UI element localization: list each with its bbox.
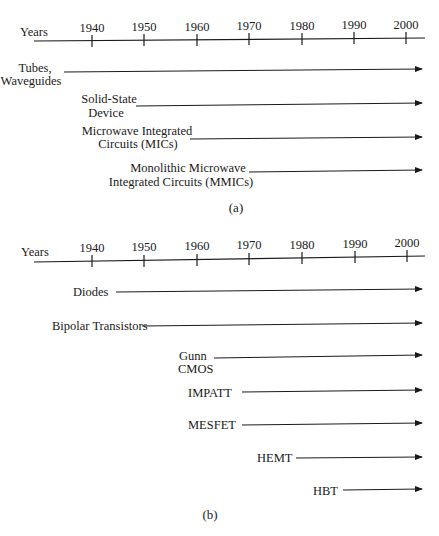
- year-axis: [34, 256, 425, 262]
- arrow: [214, 355, 422, 358]
- item-label: Solid-State: [81, 92, 137, 106]
- arrow: [116, 289, 422, 292]
- arrow: [190, 137, 422, 139]
- tick-label-1990: 1990: [342, 18, 367, 32]
- tick-label-1970: 1970: [237, 238, 262, 252]
- item-hbt: HBT: [313, 484, 422, 498]
- item-label: HBT: [313, 484, 338, 498]
- technology-timeline-diagram: Years 1940 1950 1960 1970 1980 1990 2000…: [0, 0, 439, 536]
- item-label: Tubes,: [18, 61, 51, 75]
- tick-label-1940: 1940: [80, 21, 105, 35]
- tick-label-1960: 1960: [185, 20, 210, 34]
- item-gunn-cmos: Gunn CMOS: [178, 349, 422, 376]
- arrow: [343, 489, 422, 490]
- item-label: Monolithic Microwave: [130, 161, 246, 175]
- item-label: HEMT: [257, 451, 293, 465]
- panel-caption: (a): [229, 200, 243, 215]
- panel-caption: (b): [202, 507, 217, 522]
- arrow: [64, 69, 422, 72]
- tick-label-2000: 2000: [394, 18, 419, 32]
- item-label: Diodes: [73, 285, 109, 299]
- item-label: Microwave Integrated: [82, 124, 193, 138]
- tick-label-1940: 1940: [80, 241, 105, 255]
- tick-label-2000: 2000: [395, 236, 420, 250]
- tick-label-1950: 1950: [132, 20, 157, 34]
- item-label: Bipolar Transistors: [52, 319, 148, 333]
- item-mesfet: MESFET: [188, 418, 422, 432]
- tick-label-1990: 1990: [343, 237, 368, 251]
- arrow: [249, 170, 422, 172]
- item-label: Circuits (MICs): [98, 137, 178, 151]
- panel-b: Years 1940 1950 1960 1970 1980 1990 2000…: [21, 236, 425, 522]
- item-impatt: IMPATT: [188, 386, 422, 400]
- axis-ticks: [92, 32, 406, 47]
- arrow: [242, 390, 422, 392]
- tick-label-1950: 1950: [132, 240, 157, 254]
- item-label: Gunn: [179, 349, 208, 363]
- item-mmics: Monolithic Microwave Integrated Circuits…: [109, 161, 422, 189]
- item-diodes: Diodes: [73, 285, 422, 299]
- arrow: [296, 457, 422, 458]
- item-label: Waveguides: [1, 74, 62, 88]
- item-hemt: HEMT: [257, 451, 422, 465]
- panel-a: Years 1940 1950 1960 1970 1980 1990 2000…: [1, 18, 425, 215]
- item-solid-state-device: Solid-State Device: [81, 92, 422, 120]
- arrow: [142, 323, 422, 326]
- arrow: [242, 423, 422, 425]
- year-axis: [34, 38, 425, 41]
- axis-label: Years: [21, 245, 49, 259]
- tick-label-1970: 1970: [237, 19, 262, 33]
- axis-label: Years: [20, 25, 48, 39]
- item-bipolar-transistors: Bipolar Transistors: [52, 319, 422, 333]
- tick-label-1980: 1980: [290, 19, 315, 33]
- item-label: MESFET: [188, 418, 236, 432]
- arrow: [136, 103, 422, 106]
- tick-label-1980: 1980: [290, 238, 315, 252]
- item-tubes-waveguides: Tubes, Waveguides: [1, 61, 422, 88]
- item-label: Integrated Circuits (MMICs): [109, 175, 253, 189]
- item-label: Device: [88, 106, 124, 120]
- item-mics: Microwave Integrated Circuits (MICs): [82, 124, 422, 151]
- item-label: IMPATT: [188, 386, 232, 400]
- tick-label-1960: 1960: [185, 239, 210, 253]
- item-label: CMOS: [178, 362, 213, 376]
